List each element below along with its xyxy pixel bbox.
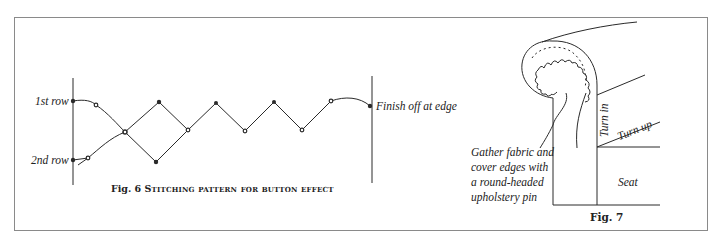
- stitch-point-filled: [214, 101, 218, 105]
- zigzag-stitch: [125, 101, 331, 132]
- stitch-point-open: [329, 99, 333, 103]
- stitch-point-filled: [272, 100, 276, 104]
- second-row-curve: [73, 132, 125, 160]
- second-row-label: 2nd row: [31, 155, 69, 167]
- gather-note-line: a round-headed: [471, 175, 591, 190]
- gather-note-line: cover edges with: [471, 160, 591, 175]
- stitch-point-open: [300, 128, 304, 132]
- finish-label: Finish off at edge: [376, 101, 457, 113]
- stitch-point-filled: [71, 158, 75, 162]
- lower-stitch: [125, 130, 188, 162]
- stitch-point-open: [94, 103, 98, 107]
- first-row-label: 1st row: [35, 96, 69, 108]
- gathered-pleats-top: [538, 60, 590, 102]
- finish-curve: [331, 98, 370, 106]
- diagram-canvas: [0, 0, 722, 243]
- first-row-curve: [73, 100, 125, 132]
- fig6-caption-text: Stitching pattern for button effect: [145, 183, 334, 194]
- turn-in-label: Turn in: [599, 103, 611, 137]
- gather-note-line: Gather fabric and: [471, 145, 591, 160]
- stitch-point-open: [123, 130, 127, 134]
- seat-label: Seat: [618, 177, 638, 189]
- stitch-point-open: [86, 156, 90, 160]
- fig6-stitching-diagram: [73, 76, 372, 185]
- gather-note-line: upholstery pin: [471, 190, 591, 205]
- arm-top-line: [542, 22, 637, 42]
- gather-fabric-note: Gather fabric and cover edges with a rou…: [471, 145, 591, 205]
- stitch-point-filled: [71, 99, 75, 103]
- fig7-caption: Fig. 7: [590, 212, 623, 223]
- stitch-point-filled: [157, 100, 161, 104]
- pointer-line-right: [577, 93, 586, 148]
- finish-point: [368, 104, 372, 108]
- stitch-point-open: [243, 129, 247, 133]
- fig6-caption: Fig. 6 Stitching pattern for button effe…: [111, 184, 334, 194]
- fig6-caption-number: Fig. 6: [111, 183, 141, 194]
- stitch-point-filled: [154, 160, 158, 164]
- stitch-point-open: [186, 128, 190, 132]
- inner-arm-line: [597, 75, 645, 95]
- gathered-pleats-bottom: [535, 70, 557, 96]
